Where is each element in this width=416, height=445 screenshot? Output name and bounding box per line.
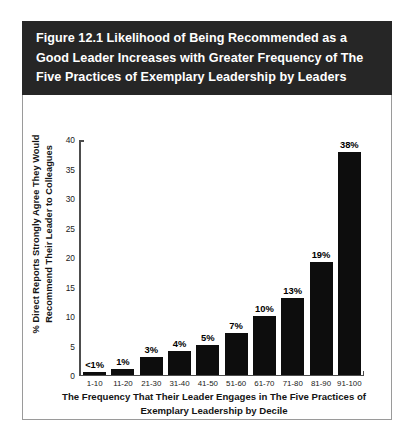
bar-group[interactable]: 38%91-100 xyxy=(338,139,361,375)
y-axis-tick-label: 0 xyxy=(70,371,75,381)
bar-value-label: <1% xyxy=(85,359,104,370)
x-axis-tick-label: 61-70 xyxy=(254,379,274,388)
y-axis-tick-label: 30 xyxy=(66,194,75,204)
bar-group[interactable]: 19%81-90 xyxy=(310,139,333,375)
bar-series: <1%1-101%11-203%21-304%31-405%41-507%51-… xyxy=(81,139,364,375)
x-axis-tick-label: 51-60 xyxy=(226,379,246,388)
y-axis-tick-label: 20 xyxy=(66,253,75,263)
bar[interactable] xyxy=(111,369,134,375)
x-axis-tick-label: 31-40 xyxy=(169,379,189,388)
x-axis-label: The Frequency That Their Leader Engages … xyxy=(51,390,377,417)
figure-title-bar: Figure 12.1 Likelihood of Being Recommen… xyxy=(22,21,392,95)
bar-group[interactable]: 3%21-30 xyxy=(140,139,163,375)
bar[interactable] xyxy=(281,298,304,375)
bar-group[interactable]: 10%61-70 xyxy=(253,139,276,375)
figure-container: Figure 12.1 Likelihood of Being Recommen… xyxy=(22,21,392,420)
bar-value-label: 19% xyxy=(312,249,331,260)
x-axis-tick-label: 41-50 xyxy=(198,379,218,388)
x-axis-tick-label: 91-100 xyxy=(337,379,362,388)
bar-value-label: 13% xyxy=(283,285,302,296)
y-axis-label-text: % Direct Reports Strongly Agree They Wou… xyxy=(30,102,56,366)
bar[interactable] xyxy=(310,262,333,374)
bar-value-label: 3% xyxy=(144,344,158,355)
bar[interactable] xyxy=(225,333,248,374)
bar-group[interactable]: 13%71-80 xyxy=(281,139,304,375)
bar-value-label: 1% xyxy=(116,356,130,367)
x-axis-line xyxy=(79,375,364,377)
x-axis-tick-label: 71-80 xyxy=(283,379,303,388)
figure-title: Figure 12.1 Likelihood of Being Recommen… xyxy=(36,29,378,88)
bar[interactable] xyxy=(338,152,361,375)
bar-value-label: 4% xyxy=(173,338,187,349)
bar-value-label: 38% xyxy=(340,139,359,150)
bar-group[interactable]: <1%1-10 xyxy=(83,139,106,375)
bar-group[interactable]: 4%31-40 xyxy=(168,139,191,375)
y-axis-tick-label: 15 xyxy=(66,283,75,293)
x-axis-tick-label: 1-10 xyxy=(87,379,103,388)
y-axis-tick-label: 25 xyxy=(66,224,75,234)
x-axis-tick-label: 21-30 xyxy=(141,379,161,388)
bar[interactable] xyxy=(253,316,276,375)
plot-area: 0510152025303540 <1%1-101%11-203%21-304%… xyxy=(79,140,364,376)
x-axis-tick-label: 81-90 xyxy=(311,379,331,388)
bar[interactable] xyxy=(83,372,106,374)
y-axis-label: % Direct Reports Strongly Agree They Wou… xyxy=(29,99,57,369)
y-axis-tick-label: 10 xyxy=(66,312,75,322)
y-axis-tick-label: 5 xyxy=(70,342,75,352)
bar[interactable] xyxy=(196,345,219,375)
bar-group[interactable]: 7%51-60 xyxy=(225,139,248,375)
bar-value-label: 5% xyxy=(201,332,215,343)
bar-value-label: 10% xyxy=(255,303,274,314)
bar-group[interactable]: 5%41-50 xyxy=(196,139,219,375)
chart-panel: % Direct Reports Strongly Agree They Wou… xyxy=(22,95,392,420)
bar-group[interactable]: 1%11-20 xyxy=(111,139,134,375)
x-axis-tick-label: 11-20 xyxy=(113,379,133,388)
y-axis-tick-label: 35 xyxy=(66,165,75,175)
bar[interactable] xyxy=(168,351,191,375)
bar[interactable] xyxy=(140,357,163,375)
y-axis-tick-label: 40 xyxy=(66,135,75,145)
bar-value-label: 7% xyxy=(229,320,243,331)
